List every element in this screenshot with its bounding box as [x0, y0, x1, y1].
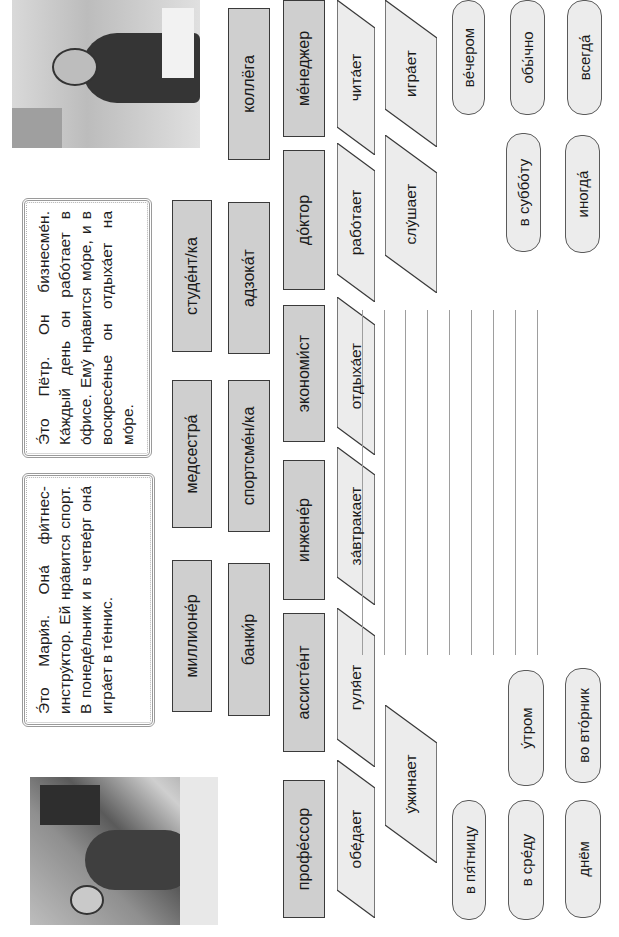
- profession-card[interactable]: спортсме́н/ка: [228, 380, 270, 532]
- verb-card[interactable]: слу́шает: [385, 135, 437, 293]
- time-label: всегда́: [576, 35, 593, 81]
- profession-label: спортсме́н/ка: [240, 407, 258, 506]
- verb-card[interactable]: отдыха́ет: [337, 297, 375, 455]
- verb-label: отдыха́ет: [347, 343, 365, 409]
- verb-label: игра́ет: [402, 50, 420, 97]
- answer-line[interactable]: [405, 310, 406, 655]
- answer-line[interactable]: [537, 310, 538, 655]
- answer-line[interactable]: [384, 310, 385, 655]
- time-label: в пя́тницу: [461, 826, 478, 894]
- profession-card[interactable]: ме́неджер: [283, 0, 325, 137]
- answer-line[interactable]: [493, 310, 494, 655]
- answer-line[interactable]: [449, 310, 450, 655]
- profession-label: до́ктор: [295, 195, 313, 245]
- time-label: ве́чером: [460, 28, 477, 87]
- profession-card[interactable]: студе́нт/ка: [172, 200, 212, 352]
- verb-label: за́втракает: [347, 487, 365, 566]
- answer-line[interactable]: [427, 310, 428, 655]
- profession-card[interactable]: банки́р: [228, 563, 270, 716]
- verb-card[interactable]: рабо́тает: [337, 143, 375, 302]
- profession-card[interactable]: ассисте́нт: [283, 613, 325, 752]
- profession-card[interactable]: коллёга: [228, 8, 270, 160]
- pyotr-photo: [12, 0, 200, 148]
- time-pill[interactable]: во вто́рник: [565, 668, 601, 783]
- profession-card[interactable]: медсестра́: [172, 380, 212, 528]
- time-pill[interactable]: всегда́: [567, 0, 602, 115]
- verb-card[interactable]: гуля́ет: [337, 608, 375, 767]
- profession-label: студе́нт/ка: [183, 237, 201, 315]
- verb-label: у́жинает: [402, 754, 420, 813]
- pyotr-text: Э́то Пётр. Он бизнесме́н. Ка́ждый день о…: [35, 211, 136, 445]
- profession-label: коллёга: [240, 55, 258, 113]
- time-label: во вто́рник: [575, 688, 592, 763]
- verb-card[interactable]: игра́ет: [385, 0, 437, 147]
- verb-card[interactable]: за́втракает: [337, 447, 375, 605]
- profession-card[interactable]: миллионе́р: [172, 560, 212, 712]
- profession-card[interactable]: инжене́р: [283, 460, 325, 600]
- maria-description: Э́то Мари́я. Она́ фи́тнес-инстру́ктор. Е…: [22, 473, 155, 727]
- profession-label: ме́неджер: [295, 31, 313, 106]
- profession-label: экономи́ст: [295, 335, 313, 412]
- verb-card[interactable]: у́жинает: [385, 705, 437, 863]
- verb-label: гуля́ет: [347, 665, 365, 711]
- profession-card[interactable]: адзока́т: [228, 202, 270, 354]
- verb-label: обе́дает: [347, 810, 365, 869]
- verb-label: рабо́тает: [347, 190, 365, 256]
- time-pill[interactable]: в суббо́ту: [506, 133, 541, 252]
- verb-card[interactable]: чита́ет: [337, 0, 375, 155]
- verb-label: слу́шает: [402, 184, 420, 245]
- profession-card[interactable]: экономи́ст: [283, 305, 325, 442]
- time-pill[interactable]: у́тром: [508, 670, 544, 786]
- time-label: обы́чно: [519, 31, 536, 83]
- profession-card[interactable]: до́ктор: [283, 150, 325, 290]
- time-pill[interactable]: иногда́: [565, 135, 600, 253]
- profession-label: ассисте́нт: [295, 645, 313, 719]
- answer-line[interactable]: [471, 310, 472, 655]
- verb-label: чита́ет: [347, 54, 365, 101]
- time-pill[interactable]: в сре́ду: [508, 800, 544, 920]
- profession-card[interactable]: профе́ссор: [283, 780, 325, 918]
- profession-label: адзока́т: [240, 249, 258, 307]
- pyotr-description: Э́то Пётр. Он бизнесме́н. Ка́ждый день о…: [22, 198, 152, 458]
- worksheet: Э́то Мари́я. Она́ фи́тнес-инстру́ктор. Е…: [0, 0, 619, 937]
- maria-text: Э́то Мари́я. Она́ фи́тнес-инстру́ктор. Е…: [35, 486, 115, 714]
- profession-label: банки́р: [240, 614, 258, 665]
- verb-card[interactable]: обе́дает: [337, 760, 375, 918]
- time-pill[interactable]: ве́чером: [452, 0, 485, 115]
- time-label: днём: [575, 841, 592, 877]
- time-label: у́тром: [518, 707, 535, 748]
- profession-label: медсестра́: [183, 415, 201, 494]
- maria-photo: [30, 777, 218, 925]
- profession-label: инжене́р: [295, 498, 313, 562]
- time-pill[interactable]: днём: [565, 800, 601, 918]
- profession-label: профе́ссор: [295, 808, 313, 891]
- profession-label: миллионе́р: [183, 594, 201, 677]
- time-label: иногда́: [574, 171, 591, 218]
- time-pill[interactable]: в пя́тницу: [452, 800, 486, 920]
- answer-line[interactable]: [515, 310, 516, 655]
- time-pill[interactable]: обы́чно: [510, 0, 545, 115]
- time-label: в суббо́ту: [515, 159, 532, 226]
- time-label: в сре́ду: [518, 834, 535, 887]
